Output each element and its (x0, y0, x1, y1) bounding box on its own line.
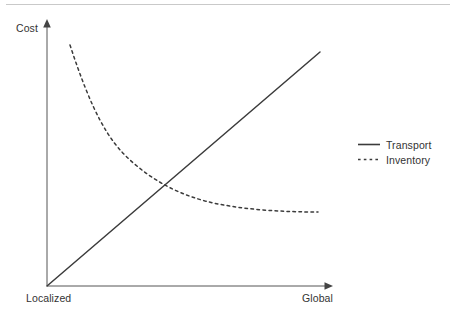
chart-canvas: Cost Localized Global Transport Inventor… (0, 0, 456, 318)
x-axis-arrowhead (325, 282, 334, 290)
legend-item-inventory-label: Inventory (386, 154, 430, 166)
y-axis-title: Cost (16, 22, 38, 34)
x-axis-end-label: Global (302, 292, 333, 304)
series-line-transport (47, 52, 320, 286)
series-line-inventory (70, 45, 318, 212)
legend-item-transport-label: Transport (386, 139, 431, 151)
y-axis-arrowhead (43, 19, 51, 28)
x-axis-start-label: Localized (26, 292, 71, 304)
